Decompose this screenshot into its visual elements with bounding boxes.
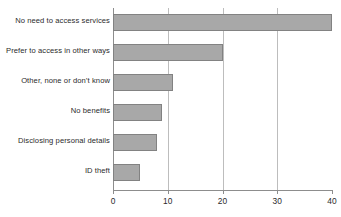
bar [113,104,162,121]
bar [113,44,223,61]
x-tick-label: 0 [102,196,124,206]
category-label: No need to access services [0,16,110,25]
tick-mark [113,190,114,194]
x-axis-ticks: 0 10 20 30 40 [0,190,332,217]
bar [113,74,173,91]
tick-mark [223,190,224,194]
category-label: No benefits [0,106,110,115]
x-tick-label: 10 [157,196,179,206]
tick-mark [277,190,278,194]
category-axis-labels: No need to access services Prefer to acc… [0,0,110,217]
tick-mark [168,190,169,194]
category-label: Disclosing personal details [0,136,110,145]
category-label: ID theft [0,166,110,175]
gridline-20 [223,8,224,190]
x-tick-label: 30 [266,196,288,206]
gridline-30 [277,8,278,190]
category-label: Prefer to access in other ways [0,46,110,55]
gridline-10 [168,8,169,190]
bar [113,134,157,151]
bar [113,164,140,181]
x-tick-label: 40 [321,196,341,206]
plot-area [113,8,332,190]
y-axis-line [113,8,114,190]
category-label: Other, none or don’t know [0,76,110,85]
x-tick-label: 20 [212,196,234,206]
tick-mark [332,190,333,194]
bar [113,14,332,31]
